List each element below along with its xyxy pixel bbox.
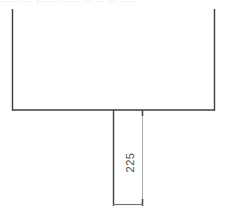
dimension-label-225: 225 bbox=[125, 150, 136, 176]
technical-drawing-canvas: —— — |—— —— — — — —— 225 bbox=[0, 0, 226, 219]
drawing-geometry bbox=[0, 0, 226, 219]
